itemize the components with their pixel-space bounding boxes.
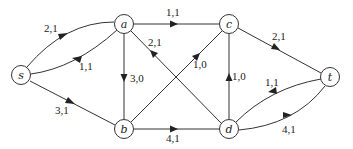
arrow-head-icon bbox=[58, 33, 68, 40]
node-label-b: b bbox=[120, 123, 127, 136]
edges: 2,1 1,1 3,1 1,1 3,0 2,1 1,0 4,1 1,0 bbox=[27, 6, 325, 144]
arrow-head-icon bbox=[121, 74, 128, 82]
node-s: s bbox=[12, 66, 31, 85]
edge-label-b-c: 1,0 bbox=[193, 58, 207, 70]
edge-a-s bbox=[31, 30, 117, 74]
arrow-head-icon bbox=[268, 87, 277, 94]
node-t: t bbox=[321, 68, 340, 87]
edge-label-s-a: 2,1 bbox=[44, 22, 58, 34]
edge-label-d-c: 1,0 bbox=[232, 70, 246, 82]
edge-s-a bbox=[27, 22, 114, 67]
node-label-d: d bbox=[225, 123, 232, 136]
edge-label-s-b: 3,1 bbox=[55, 104, 69, 116]
edge-label-d-a: 2,1 bbox=[148, 36, 162, 48]
node-a: a bbox=[115, 15, 134, 34]
node-d: d bbox=[220, 120, 239, 139]
arrow-head-icon bbox=[271, 43, 280, 50]
node-label-c: c bbox=[226, 18, 232, 31]
node-b: b bbox=[115, 120, 134, 139]
edge-label-d-t: 4,1 bbox=[282, 123, 296, 135]
edge-label-t-d: 1,1 bbox=[265, 76, 279, 88]
edge-label-a-c: 1,1 bbox=[166, 6, 180, 18]
node-label-s: s bbox=[18, 69, 24, 82]
edge-label-a-b: 3,0 bbox=[130, 72, 144, 84]
node-label-t: t bbox=[328, 71, 333, 84]
flow-network-diagram: 2,1 1,1 3,1 1,1 3,0 2,1 1,0 4,1 1,0 bbox=[0, 0, 353, 149]
node-c: c bbox=[220, 15, 239, 34]
arrow-head-icon bbox=[65, 97, 75, 104]
edge-label-b-d: 4,1 bbox=[166, 132, 180, 144]
node-label-a: a bbox=[121, 18, 128, 31]
edge-label-c-t: 2,1 bbox=[272, 30, 286, 42]
edge-label-a-s: 1,1 bbox=[79, 60, 93, 72]
arrow-head-icon bbox=[170, 21, 178, 28]
